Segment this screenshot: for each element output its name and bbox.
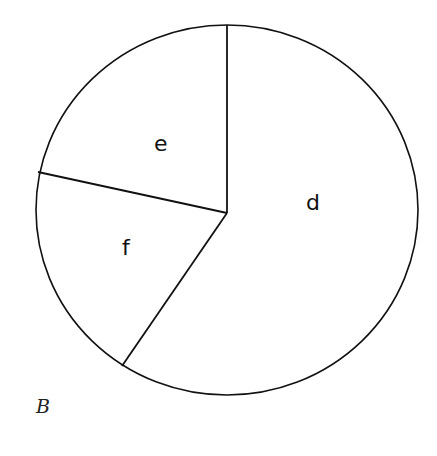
slice-label-e: e <box>154 131 168 156</box>
panel-label: B <box>36 395 50 417</box>
slice-label-f: f <box>122 235 131 260</box>
pie-chart: d f e <box>0 0 437 456</box>
slice-label-d: d <box>306 190 320 215</box>
